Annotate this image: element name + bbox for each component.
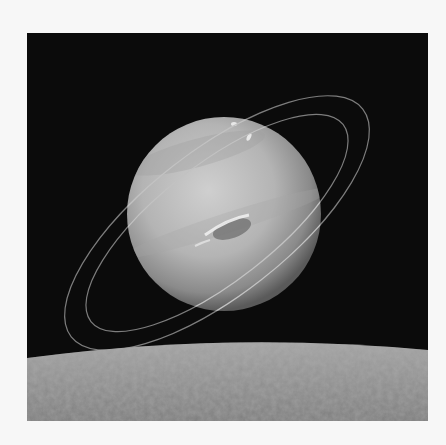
space-photo — [27, 33, 428, 421]
planet-scene-illustration — [27, 33, 428, 421]
